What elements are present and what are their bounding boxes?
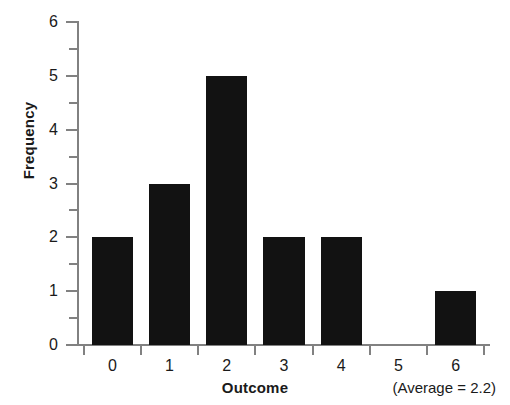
y-axis-tick-label: 0	[18, 337, 58, 353]
y-axis-tick-minor	[69, 317, 77, 319]
average-annotation: (Average = 2.2)	[392, 379, 496, 396]
y-axis-tick-minor	[69, 263, 77, 265]
x-axis-tick	[483, 346, 485, 355]
y-axis-tick-label: 4	[18, 122, 58, 138]
y-axis-tick-label: 3	[18, 176, 58, 192]
x-axis-tick	[312, 346, 314, 355]
x-axis-tick-label: 5	[378, 358, 418, 374]
x-axis-tick	[254, 346, 256, 355]
bar	[92, 237, 133, 345]
x-axis-tick-label: 2	[207, 358, 247, 374]
y-axis-tick-minor	[69, 209, 77, 211]
y-axis-tick-label: 1	[18, 283, 58, 299]
y-axis-tick-minor	[69, 156, 77, 158]
x-axis-tick	[426, 346, 428, 355]
bar	[321, 237, 362, 345]
y-axis-tick-major	[66, 75, 77, 77]
histogram-chart: Frequency 0123456 0123456 Outcome (Avera…	[0, 0, 510, 405]
y-axis-tick-label: 6	[18, 14, 58, 30]
x-axis-tick-label: 4	[321, 358, 361, 374]
y-axis-tick-major	[66, 21, 77, 23]
y-axis-tick-label: 2	[18, 229, 58, 245]
y-axis-tick-label: 5	[18, 68, 58, 84]
y-axis-tick-major	[66, 344, 77, 346]
x-axis-tick	[197, 346, 199, 355]
bar	[263, 237, 304, 345]
x-axis-tick-label: 6	[436, 358, 476, 374]
bar	[435, 291, 476, 345]
x-axis-tick-label: 3	[264, 358, 304, 374]
y-axis-tick-major	[66, 183, 77, 185]
plot-area	[78, 22, 490, 345]
x-axis-tick	[369, 346, 371, 355]
y-axis-tick-minor	[69, 102, 77, 104]
y-axis-tick-major	[66, 236, 77, 238]
y-axis-tick-major	[66, 290, 77, 292]
x-axis-tick-label: 0	[92, 358, 132, 374]
y-axis-tick-major	[66, 129, 77, 131]
bar	[206, 76, 247, 345]
y-axis-tick-minor	[69, 48, 77, 50]
x-axis-tick-label: 1	[150, 358, 190, 374]
x-axis-tick	[140, 346, 142, 355]
y-axis-title: Frequency	[20, 61, 37, 221]
bar	[149, 184, 190, 346]
x-axis-tick	[83, 346, 85, 355]
